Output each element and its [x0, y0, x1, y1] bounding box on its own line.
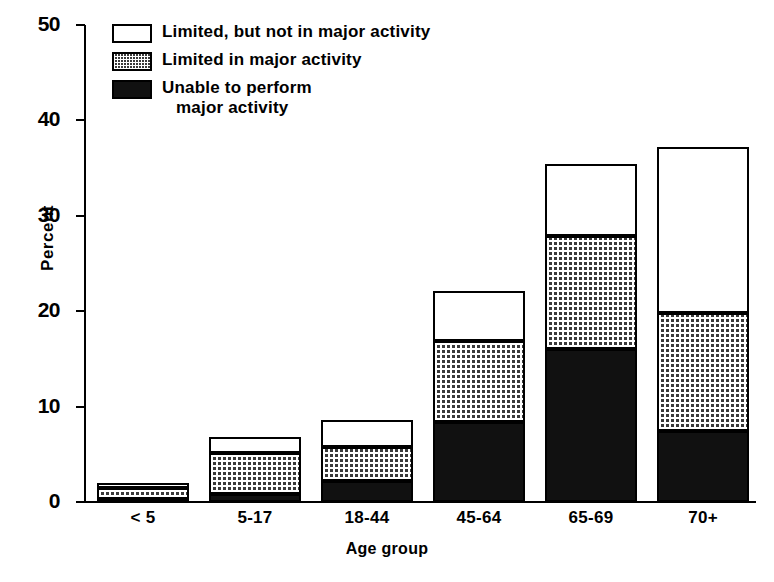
- bar-segment-black[interactable]: [545, 349, 637, 502]
- y-tick-mark: [76, 119, 85, 121]
- y-tick-mark: [76, 406, 85, 408]
- legend-label: Unable to performmajor activity: [162, 78, 312, 118]
- bar-segment-white[interactable]: [209, 437, 301, 453]
- bar-segment-dotted[interactable]: [433, 341, 525, 422]
- bar-segment-black[interactable]: [97, 498, 189, 502]
- bar-segment-dotted[interactable]: [209, 453, 301, 494]
- x-tick-label: 18-44: [321, 508, 413, 528]
- bar-segment-dotted[interactable]: [657, 313, 749, 431]
- legend-item[interactable]: Limited, but not in major activity: [112, 22, 430, 43]
- bar-segment-white[interactable]: [657, 147, 749, 313]
- bar-70+[interactable]: [657, 147, 749, 502]
- legend-swatch-dotted-icon: [112, 52, 152, 71]
- legend-label-line2: major activity: [162, 98, 312, 118]
- x-axis-label: Age group: [0, 540, 774, 558]
- bar-segment-black[interactable]: [657, 431, 749, 502]
- x-tick-label: 45-64: [433, 508, 525, 528]
- bar-segment-dotted[interactable]: [321, 447, 413, 481]
- y-tick-label: 50: [14, 12, 60, 36]
- legend: Limited, but not in major activityLimite…: [112, 22, 430, 125]
- legend-item[interactable]: Limited in major activity: [112, 50, 430, 71]
- legend-swatch-white-icon: [112, 24, 152, 43]
- x-tick-label: 70+: [657, 508, 749, 528]
- y-tick-mark: [76, 501, 85, 503]
- legend-item[interactable]: Unable to performmajor activity: [112, 78, 430, 118]
- stacked-bar-chart: 01020304050 Percent < 55-1718-4445-6465-…: [0, 0, 774, 582]
- x-tick-label: 5-17: [209, 508, 301, 528]
- y-tick-mark: [76, 310, 85, 312]
- bar-segment-white[interactable]: [433, 291, 525, 341]
- bar-segment-white[interactable]: [321, 420, 413, 447]
- bar-5-17[interactable]: [209, 437, 301, 502]
- legend-label: Limited, but not in major activity: [162, 22, 430, 42]
- bar-65-69[interactable]: [545, 164, 637, 502]
- y-axis-label: Percent: [38, 168, 58, 308]
- y-tick-mark: [76, 24, 85, 26]
- bar-segment-black[interactable]: [209, 494, 301, 502]
- bar-18-44[interactable]: [321, 420, 413, 502]
- bar-segment-dotted[interactable]: [545, 236, 637, 350]
- x-tick-label: < 5: [97, 508, 189, 528]
- legend-swatch-black-icon: [112, 80, 152, 99]
- legend-label: Limited in major activity: [162, 50, 362, 70]
- bar-segment-white[interactable]: [545, 164, 637, 236]
- y-tick-label: 40: [14, 107, 60, 131]
- x-tick-label: 65-69: [545, 508, 637, 528]
- bar-45-64[interactable]: [433, 291, 525, 502]
- bar-segment-black[interactable]: [433, 422, 525, 502]
- y-tick-label: 10: [14, 394, 60, 418]
- y-axis-line: [84, 25, 86, 503]
- bar--5[interactable]: [97, 483, 189, 502]
- y-tick-label: 0: [14, 489, 60, 513]
- y-tick-mark: [76, 215, 85, 217]
- bar-segment-black[interactable]: [321, 481, 413, 502]
